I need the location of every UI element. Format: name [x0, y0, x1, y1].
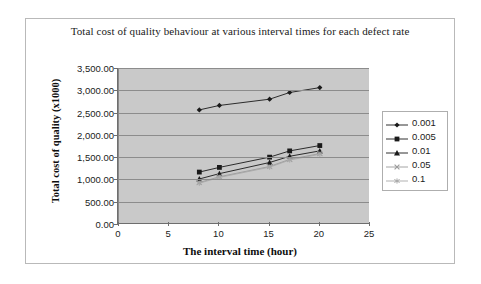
y-tick-label: 1,500.00	[52, 152, 114, 163]
y-tick-label: 3,500.00	[52, 63, 114, 74]
x-tick-label: 5	[153, 228, 183, 239]
gridline	[119, 135, 369, 136]
legend-marker-square-icon	[385, 131, 409, 143]
legend-label: 0.05	[409, 159, 431, 171]
x-axis-tick-labels: 0510152025	[118, 228, 369, 242]
data-point-diamond	[394, 122, 399, 127]
y-tick-label: 2,500.00	[52, 107, 114, 118]
x-tick-mark	[168, 222, 169, 226]
legend-item-0.005[interactable]: 0.005	[385, 130, 444, 144]
data-point-diamond	[217, 103, 222, 108]
x-tick-mark	[269, 222, 270, 226]
x-tick-label: 15	[254, 228, 284, 239]
legend-marker-triangle-icon	[385, 145, 409, 157]
x-tick-mark	[218, 222, 219, 226]
x-tick-mark	[118, 222, 119, 226]
gridline	[119, 90, 369, 91]
gridline	[119, 68, 369, 69]
legend-label: 0.005	[409, 131, 436, 143]
data-point-square	[217, 165, 222, 170]
x-tick-label: 10	[203, 228, 233, 239]
data-point-square	[317, 143, 322, 148]
x-tick-label: 25	[354, 228, 384, 239]
legend-marker-cross-icon	[385, 159, 409, 171]
x-tick-label: 0	[103, 228, 133, 239]
chart-legend: 0.0010.0050.010.050.1	[382, 111, 448, 191]
series-layer	[119, 68, 370, 224]
data-point-square	[197, 170, 202, 175]
y-axis-tick-labels: 0.00500.001,000.001,500.002,000.002,500.…	[48, 19, 114, 263]
legend-marker-star-icon	[385, 173, 409, 185]
data-point-square	[287, 149, 292, 154]
x-tick-mark	[369, 222, 370, 226]
x-axis-title: The interval time (hour)	[26, 245, 454, 257]
legend-item-0.01[interactable]: 0.01	[385, 144, 444, 158]
legend-marker-diamond-icon	[385, 117, 409, 129]
gridline	[119, 179, 369, 180]
legend-item-0.05[interactable]: 0.05	[385, 158, 444, 172]
data-point-square	[395, 137, 400, 142]
legend-label: 0.001	[409, 117, 436, 129]
y-tick-label: 2,000.00	[52, 129, 114, 140]
plot-area	[118, 68, 369, 224]
legend-label: 0.01	[409, 145, 431, 157]
x-tick-mark	[319, 222, 320, 226]
gridline	[119, 202, 369, 203]
gridline	[119, 157, 369, 158]
series-0.01	[196, 148, 322, 182]
series-0.005	[197, 143, 322, 174]
y-tick-label: 1,000.00	[52, 174, 114, 185]
legend-item-0.1[interactable]: 0.1	[385, 172, 444, 186]
chart-frame: Total cost of quality behaviour at vario…	[25, 18, 455, 264]
gridline	[119, 113, 369, 114]
data-point-diamond	[197, 107, 202, 112]
y-tick-label: 500.00	[52, 196, 114, 207]
y-tick-label: 3,000.00	[52, 85, 114, 96]
legend-label: 0.1	[409, 173, 425, 185]
legend-item-0.001[interactable]: 0.001	[385, 116, 444, 130]
x-tick-label: 20	[304, 228, 334, 239]
data-point-diamond	[267, 97, 272, 102]
